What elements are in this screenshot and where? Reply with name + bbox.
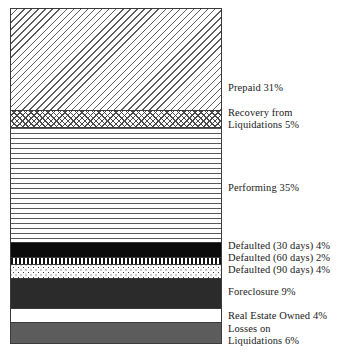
bar-segment-real-estate-owned[interactable] bbox=[11, 308, 221, 322]
bar-segment-defaulted-90-days[interactable] bbox=[11, 264, 221, 278]
stacked-bar-chart: Prepaid 31% Recovery from Liquidations 5… bbox=[0, 0, 339, 353]
label-defaulted-30-days: Defaulted (30 days) 4% bbox=[228, 240, 330, 252]
label-losses-line2: Liquidations 6% bbox=[228, 335, 299, 347]
label-losses-line1: Losses on bbox=[228, 323, 299, 335]
label-foreclosure: Foreclosure 9% bbox=[228, 286, 296, 298]
label-prepaid-text: Prepaid 31% bbox=[228, 82, 283, 94]
label-performing-text: Performing 35% bbox=[228, 182, 299, 194]
bar-segment-defaulted-30-days[interactable] bbox=[11, 242, 221, 256]
label-defaulted-60-days: Defaulted (60 days) 2% bbox=[228, 252, 330, 264]
label-defaulted-30-text: Defaulted (30 days) 4% bbox=[228, 240, 330, 252]
label-recovery-from-liquidations: Recovery from Liquidations 5% bbox=[228, 107, 299, 132]
bar-segment-losses-on-liquidations[interactable] bbox=[11, 322, 221, 343]
label-recovery-line1: Recovery from bbox=[228, 107, 299, 119]
label-real-estate-owned-text: Real Estate Owned 4% bbox=[228, 310, 327, 322]
label-foreclosure-text: Foreclosure 9% bbox=[228, 286, 296, 298]
label-recovery-line2: Liquidations 5% bbox=[228, 119, 299, 131]
label-prepaid: Prepaid 31% bbox=[228, 82, 283, 94]
label-defaulted-60-text: Defaulted (60 days) 2% bbox=[228, 252, 330, 264]
bar-segment-foreclosure[interactable] bbox=[11, 278, 221, 308]
bar-segment-recovery-from-liquidations[interactable] bbox=[11, 110, 221, 127]
bar-segment-performing[interactable] bbox=[11, 127, 221, 242]
label-defaulted-90-text: Defaulted (90 days) 4% bbox=[228, 264, 330, 276]
bar-segment-defaulted-60-days[interactable] bbox=[11, 257, 221, 265]
bar-segment-prepaid[interactable] bbox=[11, 9, 221, 110]
stacked-bar-column bbox=[10, 8, 222, 344]
label-losses-on-liquidations: Losses on Liquidations 6% bbox=[228, 323, 299, 348]
label-real-estate-owned: Real Estate Owned 4% bbox=[228, 310, 327, 322]
label-defaulted-90-days: Defaulted (90 days) 4% bbox=[228, 264, 330, 276]
label-performing: Performing 35% bbox=[228, 182, 299, 194]
